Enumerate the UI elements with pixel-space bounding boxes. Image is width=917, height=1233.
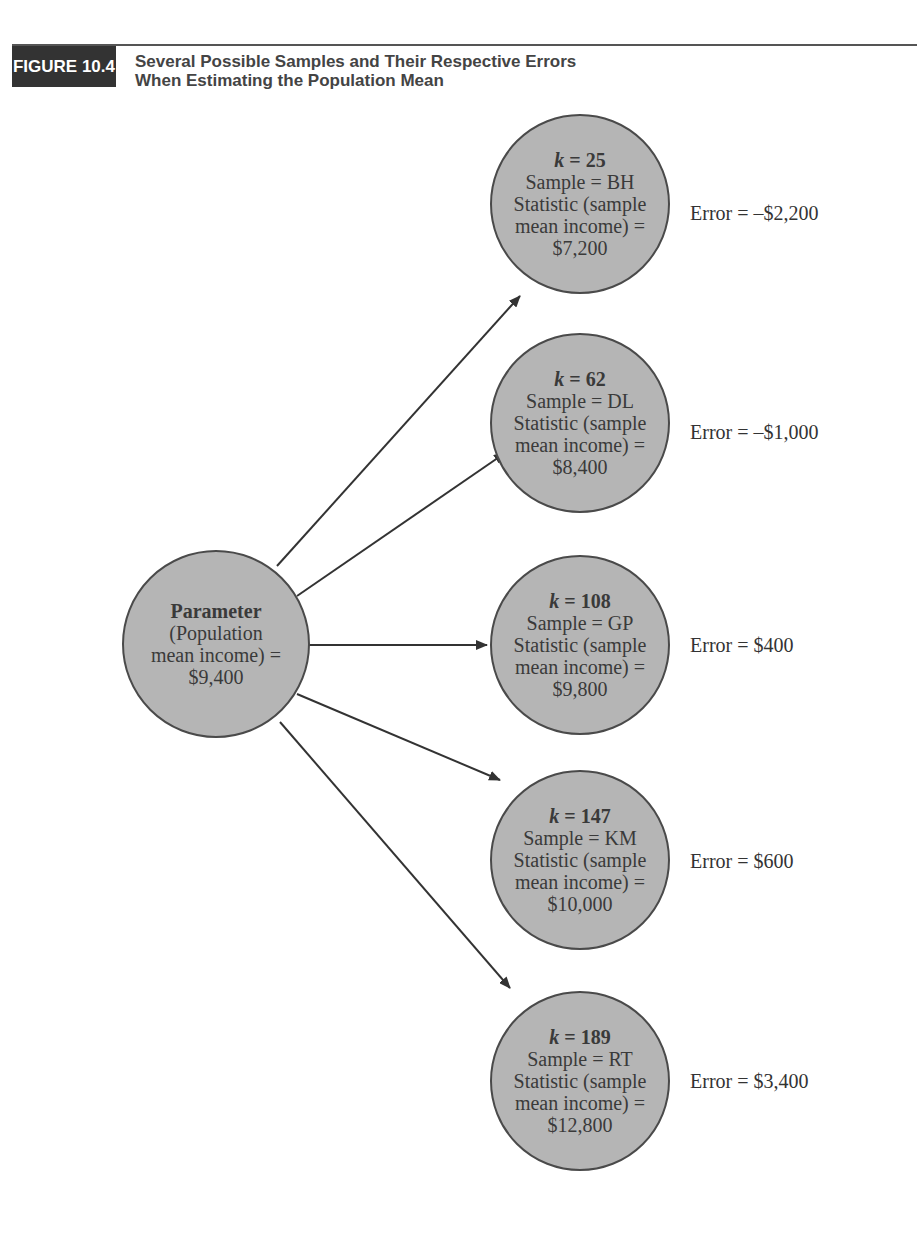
statistic-value: $10,000	[548, 893, 613, 915]
arrow-to-sample-2	[297, 453, 505, 596]
sample-node-2: k = 62 Sample = DL Statistic (sample mea…	[490, 333, 670, 513]
statistic-value: $9,800	[553, 678, 608, 700]
arrow-to-sample-5	[280, 722, 510, 988]
sample-node-1: k = 25 Sample = BH Statistic (sample mea…	[490, 114, 670, 294]
arrow-to-sample-4	[297, 694, 500, 780]
sample-id: Sample = BH	[525, 171, 634, 193]
statistic-value: $8,400	[553, 456, 608, 478]
k-symbol: k	[549, 805, 559, 827]
statistic-line2: mean income) =	[515, 215, 645, 237]
statistic-value: $12,800	[548, 1114, 613, 1136]
sample-node-5: k = 189 Sample = RT Statistic (sample me…	[490, 991, 670, 1171]
sample-node-3: k = 108 Sample = GP Statistic (sample me…	[490, 555, 670, 735]
sample-id: Sample = GP	[527, 612, 634, 634]
sample-id: Sample = KM	[523, 827, 637, 849]
sample-id: Sample = DL	[526, 390, 634, 412]
statistic-line1: Statistic (sample	[514, 849, 647, 871]
statistic-line1: Statistic (sample	[514, 1070, 647, 1092]
error-label-5: Error = $3,400	[690, 1070, 808, 1093]
sample-node-4: k = 147 Sample = KM Statistic (sample me…	[490, 770, 670, 950]
statistic-line2: mean income) =	[515, 871, 645, 893]
k-value: = 25	[569, 149, 605, 171]
statistic-line2: mean income) =	[515, 1092, 645, 1114]
k-value: = 62	[569, 368, 605, 390]
statistic-line1: Statistic (sample	[514, 193, 647, 215]
k-value: = 108	[564, 590, 610, 612]
parameter-value: $9,400	[189, 666, 244, 688]
parameter-node: Parameter (Population mean income) = $9,…	[122, 550, 310, 738]
error-label-2: Error = –$1,000	[690, 421, 818, 444]
error-label-4: Error = $600	[690, 850, 793, 873]
sample-id: Sample = RT	[527, 1048, 633, 1070]
parameter-line2: (Population	[169, 622, 262, 644]
statistic-line2: mean income) =	[515, 656, 645, 678]
k-value: = 189	[564, 1026, 610, 1048]
statistic-value: $7,200	[553, 237, 608, 259]
statistic-line1: Statistic (sample	[514, 412, 647, 434]
k-symbol: k	[554, 149, 564, 171]
parameter-line3: mean income) =	[151, 644, 281, 666]
error-label-1: Error = –$2,200	[690, 202, 818, 225]
k-symbol: k	[554, 368, 564, 390]
k-symbol: k	[549, 590, 559, 612]
error-label-3: Error = $400	[690, 634, 793, 657]
statistic-line2: mean income) =	[515, 434, 645, 456]
k-value: = 147	[564, 805, 610, 827]
k-symbol: k	[549, 1026, 559, 1048]
statistic-line1: Statistic (sample	[514, 634, 647, 656]
parameter-title: Parameter	[170, 600, 261, 622]
